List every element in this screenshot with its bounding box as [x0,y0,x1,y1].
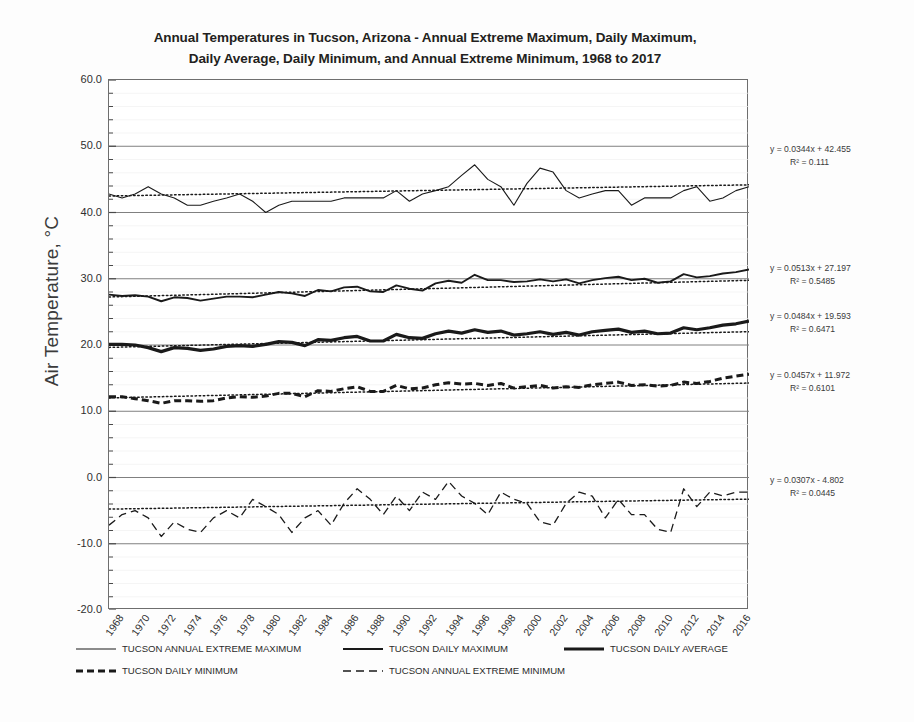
y-tick-label: 0.0 [56,471,102,483]
x-tick-label: 1998 [494,612,517,638]
equation-text: y = 0.0484x + 19.593 [770,310,910,323]
series-line-0 [109,165,749,213]
x-tick-label: 1986 [338,612,361,638]
legend-label: TUCSON DAILY AVERAGE [610,644,728,654]
y-axis-tick-labels: 60.050.040.030.020.010.00.0-10.0-20.0 [48,79,102,609]
y-tick-label: -10.0 [56,537,102,549]
chart-title-line-2: Daily Average, Daily Minimum, and Annual… [110,49,740,70]
legend-item[interactable]: TUCSON ANNUAL EXTREME MAXIMUM [76,644,301,654]
legend-swatch-icon [343,666,383,676]
x-tick-label: 1978 [233,612,256,638]
legend-swatch-icon [343,644,383,654]
trendline-equation-0: y = 0.0344x + 42.455R² = 0.111 [770,143,910,169]
x-tick-label: 1990 [390,612,413,638]
x-tick-label: 2000 [521,612,544,638]
equation-text: y = 0.0344x + 42.455 [770,143,910,156]
legend-label: TUCSON ANNUAL EXTREME MINIMUM [389,666,565,676]
series-line-1 [109,269,749,301]
r-squared-text: R² = 0.111 [770,156,910,169]
x-tick-label: 1976 [207,612,230,638]
trendline-equation-1: y = 0.0513x + 27.197R² = 0.5485 [770,262,910,288]
x-tick-label: 1984 [312,612,335,638]
x-tick-label: 2004 [573,612,596,638]
y-tick-label: 30.0 [56,272,102,284]
y-tick-label: 50.0 [56,139,102,151]
legend-label: TUCSON DAILY MAXIMUM [389,644,508,654]
y-tick-label: 60.0 [56,73,102,85]
legend-item[interactable]: TUCSON DAILY AVERAGE [564,644,728,654]
x-tick-label: 1992 [416,612,439,638]
legend-item[interactable]: TUCSON DAILY MINIMUM [76,666,238,676]
x-tick-label: 1968 [103,612,126,638]
x-tick-label: 2016 [730,612,753,638]
series-line-3 [109,374,749,403]
x-tick-label: 1972 [155,612,178,638]
x-tick-label: 2008 [625,612,648,638]
x-tick-label: 1970 [129,612,152,638]
y-tick-label: -20.0 [56,603,102,615]
x-tick-label: 2010 [651,612,674,638]
y-tick-label: 40.0 [56,206,102,218]
trendline-equation-4: y = 0.0307x - 4.802R² = 0.0445 [770,474,910,500]
r-squared-text: R² = 0.6471 [770,323,910,336]
plot-area [108,79,748,609]
equation-text: y = 0.0457x + 11.972 [770,369,910,382]
x-tick-label: 1980 [259,612,282,638]
y-tick-label: 10.0 [56,404,102,416]
x-tick-label: 1982 [285,612,308,638]
legend-item[interactable]: TUCSON ANNUAL EXTREME MINIMUM [343,666,565,676]
legend-swatch-icon [564,644,604,654]
x-tick-label: 2014 [703,612,726,638]
r-squared-text: R² = 0.6101 [770,382,910,395]
y-tick-label: 20.0 [56,338,102,350]
plot-svg [109,80,749,610]
x-tick-label: 1994 [442,612,465,638]
trendline-equation-3: y = 0.0457x + 11.972R² = 0.6101 [770,369,910,395]
series-line-2 [109,321,749,351]
x-tick-label: 1974 [181,612,204,638]
legend-swatch-icon [76,644,116,654]
trendline-0 [109,185,749,196]
x-tick-label: 2002 [547,612,570,638]
equation-text: y = 0.0307x - 4.802 [770,474,910,487]
legend-label: TUCSON ANNUAL EXTREME MAXIMUM [122,644,301,654]
trendline-1 [109,280,749,297]
x-tick-label: 2012 [677,612,700,638]
x-tick-label: 2006 [599,612,622,638]
legend-label: TUCSON DAILY MINIMUM [122,666,238,676]
chart-title-line-1: Annual Temperatures in Tucson, Arizona -… [110,28,740,49]
x-tick-label: 1996 [468,612,491,638]
series-line-4 [109,481,749,536]
r-squared-text: R² = 0.0445 [770,487,910,500]
chart-page: Annual Temperatures in Tucson, Arizona -… [0,0,914,722]
r-squared-text: R² = 0.5485 [770,275,910,288]
legend-item[interactable]: TUCSON DAILY MAXIMUM [343,644,508,654]
legend-swatch-icon [76,666,116,676]
chart-title: Annual Temperatures in Tucson, Arizona -… [110,28,740,70]
trendline-equation-2: y = 0.0484x + 19.593R² = 0.6471 [770,310,910,336]
equation-text: y = 0.0513x + 27.197 [770,262,910,275]
x-tick-label: 1988 [364,612,387,638]
chart-legend: TUCSON ANNUAL EXTREME MAXIMUMTUCSON DAIL… [76,644,876,692]
